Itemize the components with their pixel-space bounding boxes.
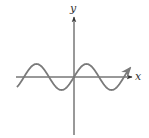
y-axis-label: y bbox=[70, 3, 76, 14]
graph-canvas bbox=[0, 0, 149, 138]
sine-graph: y x bbox=[0, 0, 149, 138]
x-axis-label: x bbox=[135, 71, 141, 82]
